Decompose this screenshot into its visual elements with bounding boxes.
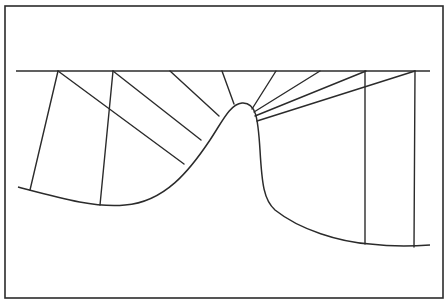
ray-lines-group (30, 71, 415, 247)
ray-line (170, 71, 219, 116)
ray-line (222, 71, 234, 104)
diagram-frame (5, 6, 443, 298)
diagram-canvas (0, 0, 446, 303)
ray-line (30, 71, 58, 190)
ray-line (414, 71, 415, 247)
ray-line (113, 71, 201, 140)
ray-line (58, 71, 184, 164)
diagram-svg (0, 0, 446, 303)
ray-line (252, 71, 276, 109)
ray-line (254, 71, 320, 112)
surface-curve (18, 103, 430, 246)
ray-line (100, 71, 113, 205)
